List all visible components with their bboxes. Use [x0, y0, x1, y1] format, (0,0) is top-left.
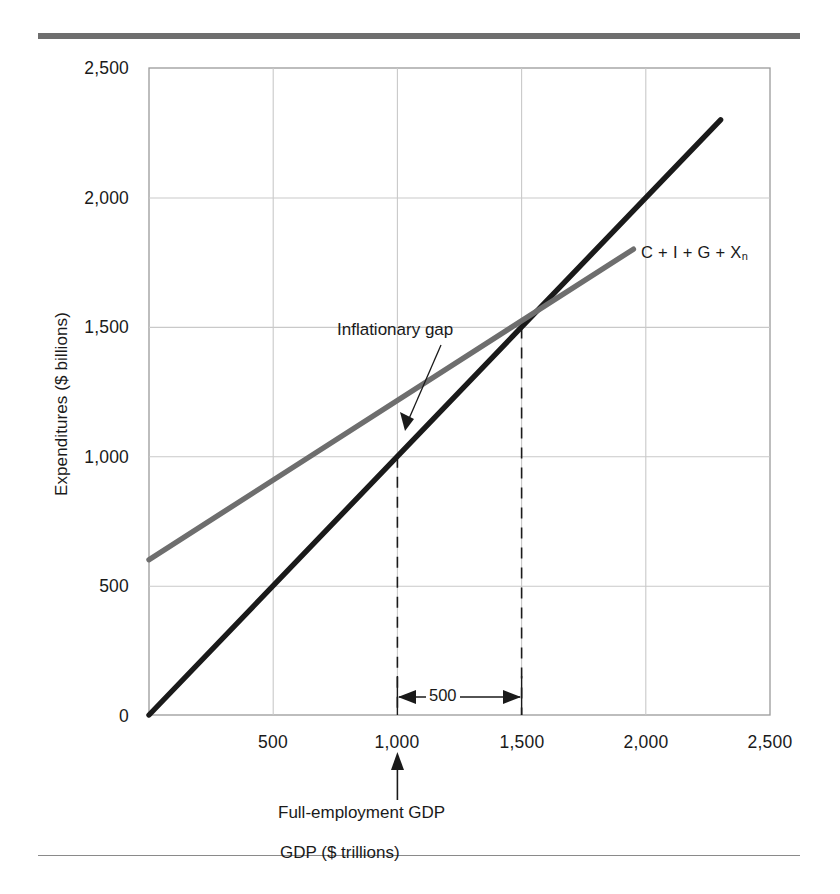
y-tick-2500: 2,500 — [49, 58, 129, 79]
figure-canvas: Expenditures ($ billions) 2,500 2,000 1,… — [0, 0, 840, 894]
y-tick-0: 0 — [49, 706, 129, 727]
y-tick-1500: 1,500 — [49, 317, 129, 338]
x-tick-2500: 2,500 — [725, 732, 815, 753]
y-tick-500: 500 — [49, 576, 129, 597]
y-axis-title: Expenditures ($ billions) — [52, 254, 72, 554]
x-tick-1500: 1,500 — [477, 732, 567, 753]
annotation-full-employment-gdp: Full-employment GDP — [278, 803, 445, 823]
series-label-text: C + I + G + X — [641, 243, 742, 261]
x-axis-title: GDP ($ trillions) — [280, 843, 400, 863]
full-employment-arrow — [391, 752, 404, 800]
series-label-aggregate-expenditures: C + I + G + Xn — [641, 243, 748, 262]
y-tick-1000: 1,000 — [49, 447, 129, 468]
x-tick-2000: 2,000 — [601, 732, 691, 753]
x-tick-500: 500 — [228, 732, 318, 753]
y-tick-2000: 2,000 — [49, 188, 129, 209]
x-tick-1000: 1,000 — [352, 732, 442, 753]
annotation-gap-value: 500 — [426, 686, 460, 705]
annotation-inflationary-gap: Inflationary gap — [337, 320, 453, 340]
series-label-subscript: n — [742, 250, 748, 262]
